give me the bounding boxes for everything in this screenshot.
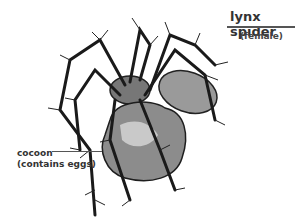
figure-subtitle: (female) bbox=[240, 31, 283, 41]
title-underline bbox=[227, 26, 295, 28]
spider-leg bbox=[130, 30, 150, 82]
cocoon-leader-line bbox=[52, 151, 102, 152]
cocoon-label-line2: (contains eggs) bbox=[17, 159, 96, 170]
cocoon-label-line1: cocoon bbox=[17, 148, 96, 159]
